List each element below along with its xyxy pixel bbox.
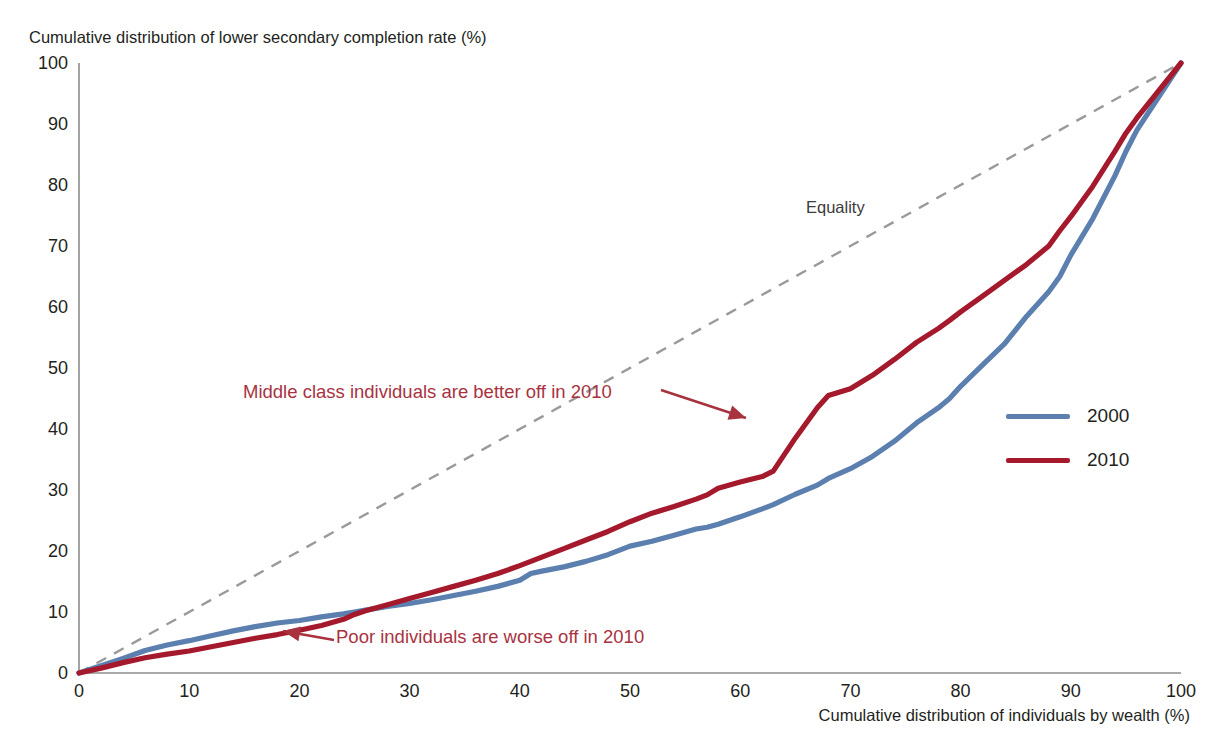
x-tick-label: 100 bbox=[1151, 682, 1211, 700]
equality-reference-line bbox=[79, 63, 1181, 673]
y-tick-label: 40 bbox=[22, 420, 68, 438]
x-tick-label: 90 bbox=[1041, 682, 1101, 700]
x-tick-label: 10 bbox=[159, 682, 219, 700]
legend-label-2010: 2010 bbox=[1087, 450, 1129, 469]
y-tick-label: 100 bbox=[22, 54, 68, 72]
y-tick-label: 20 bbox=[22, 542, 68, 560]
y-tick-label: 50 bbox=[22, 359, 68, 377]
x-tick-label: 80 bbox=[931, 682, 991, 700]
y-tick-label: 60 bbox=[22, 298, 68, 316]
y-tick-label: 10 bbox=[22, 603, 68, 621]
arrow-middle-class-head bbox=[728, 406, 746, 420]
x-tick-label: 40 bbox=[490, 682, 550, 700]
equality-line-label: Equality bbox=[806, 199, 865, 216]
y-tick-label: 90 bbox=[22, 115, 68, 133]
chart-root: Cumulative distribution of lower seconda… bbox=[0, 0, 1219, 755]
y-tick-label: 30 bbox=[22, 481, 68, 499]
y-tick-label: 80 bbox=[22, 176, 68, 194]
annotation-arrows bbox=[283, 390, 746, 641]
legend-label-2000: 2000 bbox=[1087, 406, 1129, 425]
x-axis-title: Cumulative distribution of individuals b… bbox=[0, 706, 1190, 725]
x-tick-label: 70 bbox=[820, 682, 880, 700]
y-tick-label: 0 bbox=[22, 664, 68, 682]
y-tick-label: 70 bbox=[22, 237, 68, 255]
x-tick-label: 30 bbox=[380, 682, 440, 700]
x-tick-label: 50 bbox=[600, 682, 660, 700]
series-layer bbox=[79, 63, 1181, 673]
x-tick-label: 0 bbox=[49, 682, 109, 700]
legend-swatch-2010 bbox=[1006, 458, 1070, 463]
x-tick-label: 60 bbox=[710, 682, 770, 700]
legend-swatch-2000 bbox=[1006, 414, 1070, 419]
annotation-poor: Poor individuals are worse off in 2010 bbox=[336, 628, 644, 647]
annotation-middle-class: Middle class individuals are better off … bbox=[243, 383, 612, 402]
x-tick-label: 20 bbox=[269, 682, 329, 700]
